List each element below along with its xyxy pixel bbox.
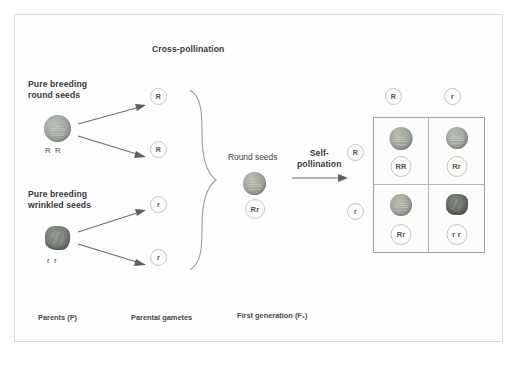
punnett-col-header-1: R xyxy=(385,88,402,105)
punnett-cell-genotype-4: r r xyxy=(446,224,467,245)
punnett-square: RR Rr Rr r r xyxy=(373,117,485,253)
punnett-row-header-1: R xyxy=(347,144,364,161)
punnett-cell-genotype-2: Rr xyxy=(446,156,467,177)
punnett-cell-rr-hetero-2: Rr xyxy=(374,185,429,252)
caption-parents: Parents (P) xyxy=(38,313,77,322)
punnett-row-header-2: r xyxy=(347,203,364,220)
figure-canvas: Cross-pollination Pure breeding round se… xyxy=(0,0,517,367)
caption-first-generation: First generation (F₁) xyxy=(237,311,307,320)
punnett-cell-rr-hetero-1: Rr xyxy=(429,118,484,185)
punnett-cell-genotype-3: Rr xyxy=(391,224,412,245)
round-seed-icon-cell-3 xyxy=(390,194,412,216)
caption-parental-gametes: Parental gametes xyxy=(131,313,192,322)
round-seed-icon-cell-1 xyxy=(390,127,413,150)
round-seed-icon-cell-2 xyxy=(446,127,468,149)
wrinkled-seed-icon-cell-4 xyxy=(446,194,468,215)
punnett-col-header-2: r xyxy=(444,88,461,105)
punnett-cell-rr-dominant: RR xyxy=(374,118,429,185)
punnett-cell-rr-recessive: r r xyxy=(429,185,484,252)
punnett-cell-genotype-1: RR xyxy=(391,156,412,177)
